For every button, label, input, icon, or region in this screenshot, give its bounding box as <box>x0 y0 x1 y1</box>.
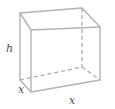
cube-figure: h x x <box>0 0 115 109</box>
edge-top-right-connector <box>82 8 100 27</box>
height-label: h <box>6 43 13 54</box>
hidden-edges <box>20 8 100 80</box>
edge-front-bottom <box>31 80 100 92</box>
edge-top-left-connector <box>20 13 31 30</box>
depth-label: x <box>18 84 24 95</box>
edge-back-top <box>20 8 82 13</box>
visible-edges <box>20 8 100 92</box>
edge-back-bottom <box>20 67 82 80</box>
width-label: x <box>69 95 75 106</box>
edge-front-top <box>31 27 100 30</box>
edge-bottom-right-connector <box>82 67 100 80</box>
